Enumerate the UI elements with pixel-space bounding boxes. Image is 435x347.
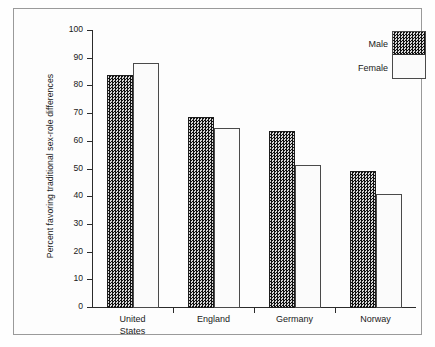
figure: Percent favoring traditional sex-role di… [0, 0, 435, 347]
x-axis-group-label: Germany [254, 314, 335, 326]
y-axis-tick: 60 [87, 141, 93, 142]
y-axis-tick-label: 90 [61, 52, 83, 63]
bar-female [214, 128, 240, 308]
x-axis-group-label-line: Germany [254, 314, 335, 326]
y-axis-tick: 50 [87, 169, 93, 170]
y-axis-tick-label: 20 [61, 246, 83, 257]
x-axis-group-label: Norway [335, 314, 416, 326]
y-axis-tick: 30 [87, 224, 93, 225]
y-axis-tick-label: 50 [61, 163, 83, 174]
chart-frame: Percent favoring traditional sex-role di… [13, 8, 422, 335]
x-axis-group-label-line: States [92, 326, 173, 338]
y-axis-tick: 40 [87, 196, 93, 197]
y-axis-tick: 70 [87, 113, 93, 114]
y-axis-tick-label: 10 [61, 273, 83, 284]
y-axis-tick: 100 [87, 30, 93, 31]
bar-male [350, 171, 376, 308]
bar-male [269, 131, 295, 308]
y-axis-tick-label: 100 [61, 24, 83, 35]
y-axis-tick: 90 [87, 58, 93, 59]
legend-label-female: Female [358, 63, 388, 73]
y-axis-tick-label: 40 [61, 190, 83, 201]
y-axis-tick-label: 0 [61, 301, 83, 312]
x-axis-group-label-line: England [173, 314, 254, 326]
y-axis-tick-label: 80 [61, 79, 83, 90]
y-axis-tick: 80 [87, 85, 93, 86]
y-axis-tick-label: 30 [61, 218, 83, 229]
bar-female [295, 165, 321, 308]
x-axis-tick [254, 308, 255, 313]
x-axis-tick [335, 308, 336, 313]
bar-female [133, 63, 159, 308]
y-axis-line [92, 31, 93, 308]
x-axis-group-label: UnitedStates [92, 314, 173, 337]
y-axis-tick-label: 70 [61, 107, 83, 118]
bar-male [107, 75, 133, 308]
x-axis-tick [173, 308, 174, 313]
legend: Male Female [314, 31, 426, 79]
bar-female [376, 194, 402, 308]
bar-male [188, 117, 214, 308]
y-axis-tick: 10 [87, 279, 93, 280]
y-axis-tick: 20 [87, 252, 93, 253]
y-axis-tick-label: 60 [61, 135, 83, 146]
x-axis-group-label-line: Norway [335, 314, 416, 326]
y-axis-tick: 0 [87, 307, 93, 308]
x-axis-group-label: England [173, 314, 254, 326]
legend-label-male: Male [368, 39, 388, 49]
legend-swatch-female [393, 55, 425, 78]
x-axis-group-label-line: United [92, 314, 173, 326]
legend-swatch [392, 31, 426, 79]
y-axis-title: Percent favoring traditional sex-role di… [45, 36, 55, 296]
legend-swatch-male [393, 32, 425, 55]
